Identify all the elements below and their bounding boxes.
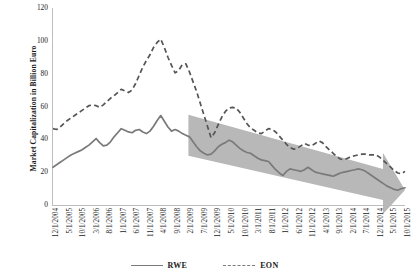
- x-tick-label: 9/1/2008: [175, 208, 182, 234]
- x-tick-label: 9/1/2013: [337, 208, 344, 234]
- x-tick-label: 10/1/2015: [405, 208, 412, 237]
- legend-swatch-eon-icon: [223, 265, 255, 266]
- plot-area: 020406080100120: [53, 8, 405, 205]
- x-tick-label: 8/1/2006: [107, 208, 114, 234]
- y-tick-label: 20: [41, 168, 48, 175]
- x-tick-label: 11/1/2007: [148, 208, 155, 237]
- x-tick-label: 3/1/2006: [94, 208, 101, 234]
- x-axis-ticks: 12/1/20045/1/200510/1/20053/1/20068/1/20…: [53, 208, 405, 254]
- x-tick-label: 5/1/2005: [67, 208, 74, 234]
- legend-item-eon: EON: [223, 261, 278, 270]
- x-tick-label: 12/1/2009: [215, 208, 222, 237]
- x-tick-label: 10/1/2005: [80, 208, 87, 237]
- legend-item-rwe: RWE: [131, 261, 188, 270]
- declining-trend-arrow: [188, 115, 405, 214]
- x-tick-label: 11/1/2012: [310, 208, 317, 237]
- legend-swatch-rwe-icon: [131, 265, 163, 266]
- y-axis-title: Market Capitalization in Billion Euro: [29, 24, 38, 194]
- chart-legend: RWE EON: [0, 256, 409, 274]
- x-tick-label: 5/1/2010: [229, 208, 236, 234]
- y-tick-label: 0: [44, 201, 48, 208]
- legend-label-rwe: RWE: [168, 261, 188, 270]
- x-tick-label: 12/1/2014: [378, 208, 385, 237]
- x-tick-label: 1/1/2012: [283, 208, 290, 234]
- x-tick-label: 2/1/2009: [188, 208, 195, 234]
- x-tick-label: 7/1/2009: [202, 208, 209, 234]
- x-tick-label: 7/1/2014: [364, 208, 371, 234]
- y-tick-label: 80: [41, 70, 48, 77]
- x-tick-label: 6/1/2012: [297, 208, 304, 234]
- x-axis-line: [52, 205, 405, 206]
- x-tick-label: 4/1/2013: [324, 208, 331, 234]
- x-tick-label: 8/1/2011: [270, 208, 277, 233]
- x-tick-label: 3/1/2011: [256, 208, 263, 233]
- series-canvas: [53, 8, 405, 205]
- y-tick-label: 100: [37, 37, 48, 44]
- x-tick-label: 4/1/2008: [161, 208, 168, 234]
- x-tick-label: 12/1/2004: [53, 208, 60, 237]
- y-tick-label: 40: [41, 136, 48, 143]
- x-tick-label: 1/1/2007: [121, 208, 128, 234]
- x-tick-label: 5/1/2015: [391, 208, 398, 234]
- x-tick-label: 6/1/2007: [134, 208, 141, 234]
- y-tick-label: 120: [37, 4, 48, 11]
- y-tick-label: 60: [41, 103, 48, 110]
- x-tick-label: 10/1/2010: [243, 208, 250, 237]
- legend-label-eon: EON: [260, 261, 278, 270]
- x-tick-label: 2/1/2014: [351, 208, 358, 234]
